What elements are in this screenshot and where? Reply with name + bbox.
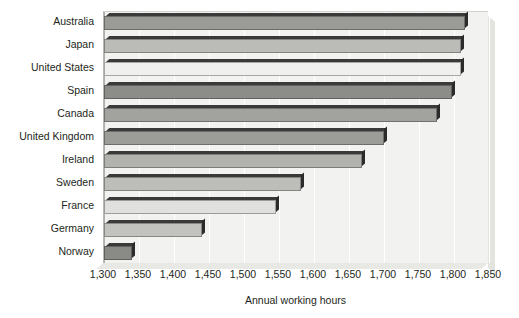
x-axis-tick-labels: 1,3001,3501,4001,4501,5001,5501,6001,650… (0, 268, 519, 284)
bar-top-face (106, 36, 464, 39)
bar-top-face (106, 59, 464, 62)
category-label-sweden: Sweden (56, 177, 94, 188)
xtick-1550: 1,550 (265, 268, 291, 281)
bar-norway[interactable] (104, 246, 132, 260)
bar-top-face (106, 128, 387, 131)
bar-end-face (362, 149, 365, 166)
bar-face (104, 131, 384, 145)
bar-face (104, 85, 452, 99)
bar-face (104, 39, 461, 53)
category-label-ireland: Ireland (62, 154, 94, 165)
bar-end-face (276, 195, 279, 212)
bar-top-face (106, 197, 279, 200)
bar-canada[interactable] (104, 108, 437, 122)
bar-face (104, 62, 461, 76)
chart-figure: Average annual hours worked per person A… (0, 0, 519, 318)
bar-united-states[interactable] (104, 62, 461, 76)
bar-face (104, 200, 276, 214)
bar-end-face (384, 126, 387, 143)
xtick-1300: 1,300 (90, 268, 116, 281)
xtick-1400: 1,400 (160, 268, 186, 281)
bar-spain[interactable] (104, 85, 452, 99)
bar-australia[interactable] (104, 16, 465, 30)
bar-united-kingdom[interactable] (104, 131, 384, 145)
x-axis-title: Annual working hours (103, 294, 488, 306)
bar-germany[interactable] (104, 223, 202, 237)
xtick-1450: 1,450 (195, 268, 221, 281)
xtick-1700: 1,700 (370, 268, 396, 281)
bar-face (104, 108, 437, 122)
bar-face (104, 16, 465, 30)
category-label-france: France (61, 200, 94, 211)
xtick-1600: 1,600 (300, 268, 326, 281)
category-axis-labels: AustraliaJapanUnited StatesSpainCanadaUn… (0, 11, 98, 263)
bar-top-face (106, 174, 304, 177)
category-label-norway: Norway (58, 246, 94, 257)
bar-end-face (461, 35, 464, 52)
bar-end-face (452, 81, 455, 98)
bar-top-face (106, 151, 365, 154)
category-label-spain: Spain (67, 85, 94, 96)
xtick-1750: 1,750 (405, 268, 431, 281)
plot-area (103, 11, 488, 263)
gridline-1850 (489, 12, 490, 263)
category-label-germany: Germany (51, 223, 94, 234)
category-label-australia: Australia (53, 16, 94, 27)
bar-end-face (301, 172, 304, 189)
xtick-1350: 1,350 (125, 268, 151, 281)
bar-face (104, 177, 301, 191)
category-label-united-kingdom: United Kingdom (19, 131, 94, 142)
bar-japan[interactable] (104, 39, 461, 53)
bar-end-face (437, 104, 440, 121)
bar-end-face (461, 58, 464, 75)
bar-top-face (106, 105, 440, 108)
bar-sweden[interactable] (104, 177, 301, 191)
bar-ireland[interactable] (104, 154, 362, 168)
xtick-1850: 1,850 (475, 268, 501, 281)
bar-top-face (106, 220, 205, 223)
bar-face (104, 154, 362, 168)
bar-top-face (106, 243, 135, 246)
bar-france[interactable] (104, 200, 276, 214)
bar-end-face (132, 241, 135, 258)
category-label-japan: Japan (65, 39, 94, 50)
category-label-canada: Canada (57, 108, 94, 119)
xtick-1500: 1,500 (230, 268, 256, 281)
bar-end-face (202, 218, 205, 235)
bar-end-face (465, 12, 468, 29)
xtick-1800: 1,800 (440, 268, 466, 281)
xtick-1650: 1,650 (335, 268, 361, 281)
bar-face (104, 246, 132, 260)
bar-top-face (106, 82, 455, 85)
bar-face (104, 223, 202, 237)
category-label-united-states: United States (31, 62, 94, 73)
